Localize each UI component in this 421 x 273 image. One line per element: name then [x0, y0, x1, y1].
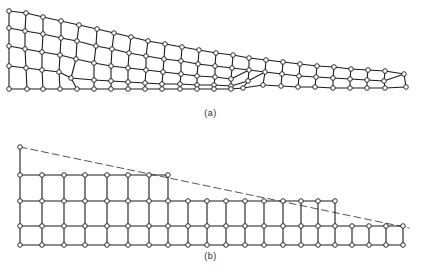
- mesh-node: [109, 79, 114, 84]
- mesh-node: [83, 173, 88, 178]
- mesh-node: [126, 87, 131, 92]
- mesh-node: [401, 243, 406, 248]
- mesh-node: [205, 224, 210, 229]
- mesh-edge-transition: [248, 72, 265, 81]
- mesh-edge-transition: [231, 70, 249, 79]
- mesh-b-edges: [20, 147, 409, 245]
- mesh-edge-vertical: [42, 70, 43, 89]
- mesh-node: [147, 173, 152, 178]
- mesh-node: [166, 224, 171, 229]
- mesh-edge-vertical: [26, 68, 27, 89]
- mesh-node: [58, 53, 63, 58]
- mesh-node: [299, 224, 304, 229]
- mesh-node: [146, 39, 151, 44]
- mesh-node: [160, 87, 165, 92]
- mesh-node: [313, 85, 318, 90]
- mesh-node: [213, 64, 218, 69]
- mesh-node: [126, 173, 131, 178]
- mesh-node: [166, 173, 171, 178]
- mesh-node: [261, 83, 266, 88]
- mesh-node: [7, 87, 12, 92]
- mesh-node: [299, 199, 304, 204]
- mesh-node: [214, 51, 219, 56]
- mesh-node: [366, 68, 371, 73]
- mesh-edge-vertical: [25, 49, 26, 68]
- mesh-node: [25, 87, 30, 92]
- mesh-node: [74, 57, 79, 62]
- mesh-node: [126, 224, 131, 229]
- mesh-node: [382, 79, 387, 84]
- mesh-node: [297, 74, 302, 79]
- mesh-node: [331, 86, 336, 91]
- mesh-node: [241, 86, 246, 91]
- mesh-node: [316, 224, 321, 229]
- mesh-node: [7, 44, 12, 49]
- caption-panel-a: (a): [0, 108, 421, 118]
- mesh-node: [18, 199, 23, 204]
- mesh-node: [197, 48, 202, 53]
- mesh-node: [147, 199, 152, 204]
- mesh-node: [262, 224, 267, 229]
- mesh-node: [105, 243, 110, 248]
- mesh-node: [230, 66, 235, 71]
- mesh-node: [296, 85, 301, 90]
- mesh-node: [178, 82, 183, 87]
- mesh-node: [75, 39, 80, 44]
- mesh-node: [229, 77, 234, 82]
- mesh-node: [40, 199, 45, 204]
- mesh-node: [147, 224, 152, 229]
- mesh-edge-vertical: [71, 59, 76, 78]
- mesh-node: [40, 243, 45, 248]
- mesh-node: [62, 199, 67, 204]
- mesh-node: [105, 199, 110, 204]
- mesh-node: [62, 173, 67, 178]
- mesh-node: [62, 243, 67, 248]
- mesh-node: [298, 62, 303, 67]
- mesh-node: [83, 224, 88, 229]
- mesh-node: [41, 87, 46, 92]
- mesh-node: [41, 32, 46, 37]
- mesh-node: [333, 199, 338, 204]
- mesh-node: [205, 199, 210, 204]
- mesh-node: [179, 59, 184, 64]
- mesh-node: [212, 87, 217, 92]
- mesh-node: [401, 224, 406, 229]
- mesh-node: [95, 27, 100, 32]
- mesh-node: [24, 11, 29, 16]
- mesh-node: [195, 74, 200, 79]
- mesh-node: [213, 75, 218, 80]
- mesh-node: [179, 72, 184, 77]
- mesh-node: [402, 72, 407, 77]
- mesh-node: [83, 243, 88, 248]
- mesh-node: [59, 36, 64, 41]
- mesh-node: [367, 243, 372, 248]
- mesh-node: [383, 69, 388, 74]
- mesh-node: [195, 87, 200, 92]
- mesh-node: [224, 224, 229, 229]
- mesh-node: [161, 70, 166, 75]
- mesh-node: [41, 15, 46, 20]
- mesh-node: [367, 224, 372, 229]
- mesh-node: [18, 224, 23, 229]
- mesh-node: [279, 84, 284, 89]
- mesh-node: [92, 78, 97, 83]
- mesh-edge-transition: [385, 87, 406, 88]
- mesh-node: [105, 224, 110, 229]
- mesh-node: [62, 224, 67, 229]
- mesh-node: [147, 243, 152, 248]
- mesh-node: [126, 66, 131, 71]
- mesh-node: [24, 66, 29, 71]
- mesh-node: [331, 76, 336, 81]
- mesh-node: [205, 243, 210, 248]
- mesh-node: [350, 224, 355, 229]
- mesh-node: [18, 243, 23, 248]
- mesh-node: [383, 86, 388, 91]
- mesh-node: [126, 199, 131, 204]
- mesh-node: [144, 68, 149, 73]
- mesh-node: [384, 224, 389, 229]
- mesh-node: [262, 199, 267, 204]
- mesh-node: [243, 199, 248, 204]
- mesh-node: [40, 68, 45, 73]
- mesh-node: [186, 243, 191, 248]
- mesh-node: [316, 243, 321, 248]
